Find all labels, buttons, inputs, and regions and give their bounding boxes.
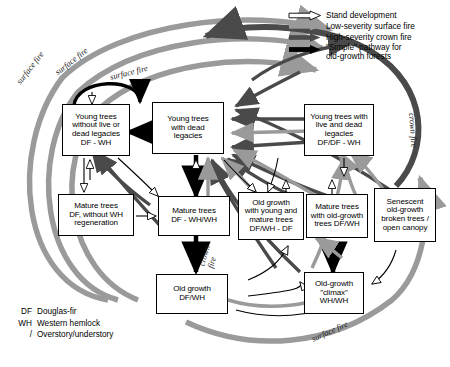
abbrev-row-df: DF Douglas-fir [12,306,113,318]
node-mature-no-wh-regen-label: Mature trees DF, without WH regeneration [69,202,123,228]
legend-label-low-severity-surface-fire: Low-severity surface fire [326,22,415,31]
low-severity-surface-fire-arrow-icon [288,21,322,32]
node-senescent-old-growth-label: Senescent old-growth broken trees / open… [381,198,429,233]
node-young-dead-legacies[interactable]: Young trees with dead legacies [152,102,224,154]
legend-label-stand-development: Stand development [326,11,397,20]
standdev-senescent-down [372,250,396,284]
node-young-no-legacies-label: Young trees without live or dead legacie… [72,113,120,148]
node-young-live-dead-legacies-label: Young trees with live and dead legacies … [310,113,367,148]
node-young-live-dead-legacies[interactable]: Young trees with live and dead legacies … [304,104,374,156]
node-old-growth[interactable]: Old growth DF/WH [156,274,228,314]
node-senescent-old-growth[interactable]: Senescent old-growth broken trees / open… [374,188,436,242]
abbrev-row-slash: / Overstory/understory [12,329,113,341]
standdev-oldgrowth-to-climax [248,282,301,296]
node-old-growth-young-mature[interactable]: Old growth with young and mature trees D… [238,192,304,240]
legend: Stand development Low-severity surface f… [288,10,415,61]
simple-pathway-arrow-icon [288,44,322,55]
crown-fire-incoming-group [236,72,300,106]
node-mature-df-wh-label: Mature trees DF - WH/WH [171,207,217,224]
lowsev-younglive-to-youngdead [232,131,310,133]
abbrev-row-wh: WH Western hemlock [12,318,113,330]
abbrev-key-df: DF [12,307,32,316]
node-mature-with-old-growth-label: Mature trees with old-growth trees DF/WH [311,203,363,229]
abbrev-key-wh: WH [12,319,32,328]
legend-label-simple-pathway: "Simple" pathway for old-growth forests [326,43,401,61]
standdev-youngnoleg-to-mature [118,158,158,196]
node-old-growth-climax[interactable]: Old-growth "climax" WH/WH [304,272,364,314]
node-young-no-legacies[interactable]: Young trees without live or dead legacie… [62,104,130,156]
abbrev-meaning-df: Douglas-fir [37,307,77,316]
node-young-dead-legacies-label: Young trees with dead legacies [167,115,208,141]
crownfire-incoming-topright [236,72,300,106]
legend-item-high-severity-crown-fire: High-severity crown fire [288,32,415,43]
node-mature-df-wh[interactable]: Mature trees DF - WH/WH [158,196,230,236]
legend-item-stand-development: Stand development [288,10,415,21]
node-mature-with-old-growth[interactable]: Mature trees with old-growth trees DF/WH [306,194,368,238]
legend-item-simple-pathway: "Simple" pathway for old-growth forests [288,43,415,61]
node-mature-no-wh-regen[interactable]: Mature trees DF, without WH regeneration [58,194,134,236]
node-old-growth-label: Old growth DF/WH [173,285,211,302]
node-old-growth-young-mature-label: Old growth with young and mature trees D… [245,199,297,234]
diagram-canvas: surface fire surface fire surface fire c… [0,0,450,367]
abbrev-meaning-slash: Overstory/understory [37,330,113,339]
legend-item-low-severity-surface-fire: Low-severity surface fire [288,21,415,32]
high-severity-crown-fire-arrow-icon [288,32,322,43]
legend-label-high-severity-crown-fire: High-severity crown fire [326,33,412,42]
abbrev-key-slash: / [12,330,32,339]
standdev-oldgrowth-to-oldgrowthym [248,246,288,280]
node-old-growth-climax-label: Old-growth "climax" WH/WH [315,280,353,306]
stand-development-arrow-icon [288,10,322,21]
abbreviation-key: DF Douglas-fir WH Western hemlock / Over… [12,306,113,341]
abbrev-meaning-wh: Western hemlock [37,319,100,328]
crownfire-younglive-to-youngdead-2 [232,142,310,147]
